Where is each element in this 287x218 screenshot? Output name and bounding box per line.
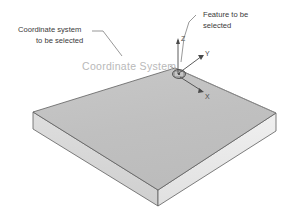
plate-top-face [33, 68, 276, 190]
right-annotation-line2: selected [203, 21, 231, 30]
origin-point [178, 73, 180, 75]
rectangular-plate[interactable] [33, 68, 276, 206]
y-axis-label: Y [205, 50, 210, 57]
left-annotation-line2: to be selected [36, 36, 83, 45]
technical-illustration: Z Y X Coordinate system to be selected F… [0, 0, 287, 218]
left-label-leader [92, 31, 122, 56]
z-axis-arrowhead [176, 38, 180, 44]
diagram-canvas: Z Y X Coordinate system to be selected F… [0, 0, 287, 218]
right-annotation-line1: Feature to be [203, 10, 248, 19]
x-axis-label: X [205, 93, 210, 100]
y-axis-arrowhead [198, 55, 204, 60]
left-annotation-line1: Coordinate system [18, 25, 81, 34]
coordinate-system-label: Coordinate System [82, 60, 176, 72]
